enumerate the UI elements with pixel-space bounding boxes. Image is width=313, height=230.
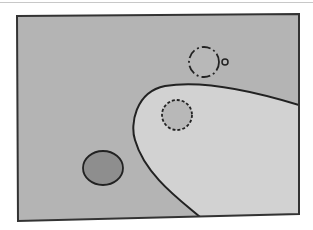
dash-dot-circle — [189, 47, 219, 77]
diagram-canvas — [0, 0, 313, 230]
small-circle — [222, 59, 228, 65]
solid-ellipse — [83, 151, 123, 185]
dashed-circle — [162, 100, 192, 130]
